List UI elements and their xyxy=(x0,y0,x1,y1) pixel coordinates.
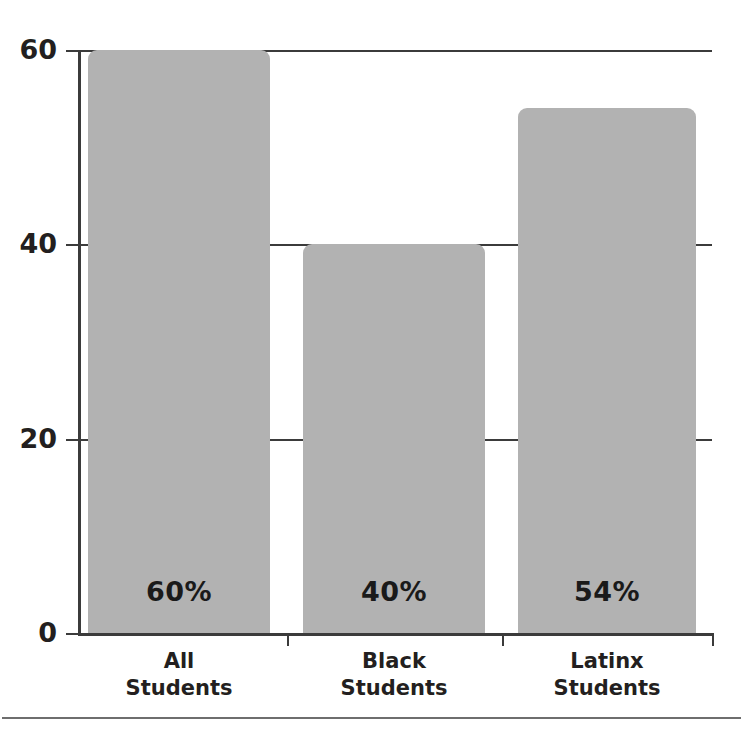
category-label-line-0: All xyxy=(68,648,290,675)
x-axis-tick-2 xyxy=(712,633,714,646)
bar-all-students: 60% xyxy=(88,50,270,633)
category-label-line-0: Latinx xyxy=(498,648,716,675)
category-label-all-students: AllStudents xyxy=(68,648,290,702)
category-label-line-1: Students xyxy=(283,675,505,702)
category-label-line-1: Students xyxy=(498,675,716,702)
y-axis-label-20: 20 xyxy=(0,425,57,452)
y-tick-60 xyxy=(66,50,79,52)
bar-latinx-students: 54% xyxy=(518,108,696,633)
y-axis-label-0: 0 xyxy=(0,619,57,646)
y-tick-20 xyxy=(66,439,79,441)
y-tick-40 xyxy=(66,244,79,246)
y-axis-label-40: 40 xyxy=(0,230,57,257)
category-label-line-1: Students xyxy=(68,675,290,702)
x-axis-tick-1 xyxy=(502,633,504,646)
y-axis-label-60: 60 xyxy=(0,36,57,63)
bar-value-label-1: 40% xyxy=(303,576,485,607)
x-axis-tick-0 xyxy=(287,633,289,646)
bar-chart-figure: 0204060 60%40%54% AllStudentsBlackStuden… xyxy=(0,0,743,731)
bar-value-label-2: 54% xyxy=(518,576,696,607)
y-tick-0 xyxy=(66,633,79,635)
category-label-latinx-students: LatinxStudents xyxy=(498,648,716,702)
y-axis-line xyxy=(78,50,81,636)
category-label-black-students: BlackStudents xyxy=(283,648,505,702)
bar-black-students: 40% xyxy=(303,244,485,633)
bar-value-label-0: 60% xyxy=(88,576,270,607)
category-label-line-0: Black xyxy=(283,648,505,675)
footer-divider-rule xyxy=(2,717,741,719)
gridline-0 xyxy=(78,633,712,636)
chart-title-clipped xyxy=(0,0,743,2)
